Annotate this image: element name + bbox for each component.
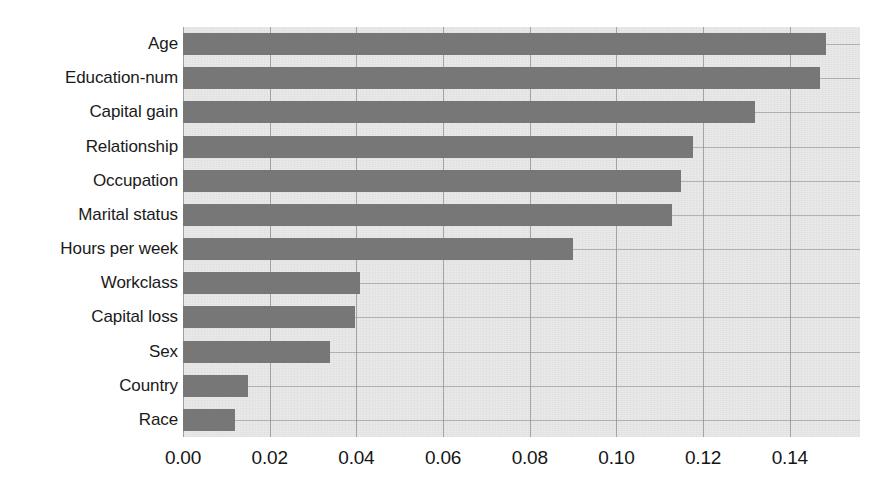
bar-relationship: [183, 136, 693, 158]
x-tick-label-0: 0.00: [143, 447, 223, 469]
horizontal-bar-chart: AgeEducation-numCapital gainRelationship…: [0, 0, 890, 492]
x-tick-label-2: 0.04: [316, 447, 396, 469]
bar-sex: [183, 341, 330, 363]
x-tick-label-7: 0.14: [750, 447, 830, 469]
x-tick-label-1: 0.02: [230, 447, 310, 469]
x-tick-label-3: 0.06: [403, 447, 483, 469]
bar-education-num: [183, 67, 820, 89]
bar-capital-gain: [183, 101, 755, 123]
bar-capital-loss: [183, 306, 355, 328]
bar-hours-per-week: [183, 238, 573, 260]
bar-marital-status: [183, 204, 672, 226]
bar-occupation: [183, 170, 681, 192]
x-tick-label-6: 0.12: [663, 447, 743, 469]
bar-race: [183, 409, 235, 431]
x-tick-label-5: 0.10: [576, 447, 656, 469]
bar-country: [183, 375, 248, 397]
bar-age: [183, 33, 826, 55]
bar-workclass: [183, 272, 360, 294]
x-tick-label-4: 0.08: [490, 447, 570, 469]
